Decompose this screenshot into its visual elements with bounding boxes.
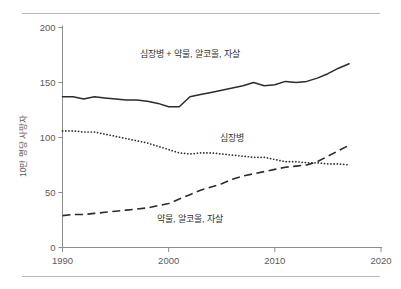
x-tick-label: 2010 (264, 255, 285, 266)
series-line-2 (63, 131, 350, 165)
y-tick-label: 50 (45, 187, 56, 198)
y-tick-label: 200 (40, 22, 56, 33)
chart-series-group (63, 64, 350, 216)
y-axis-title: 10만 명당 사망자 (18, 115, 28, 177)
x-tick-label: 1990 (52, 255, 73, 266)
y-axis-title-text: 10만 명당 사망자 (18, 115, 28, 177)
y-axis: 050100150200 (40, 22, 63, 253)
chart-figure: 050100150200 1990200020102020 심장병 + 약물, … (0, 0, 401, 289)
series-label-3: 약물, 알코올, 자살 (157, 213, 223, 224)
series-line-1 (63, 64, 350, 107)
y-tick-label: 100 (40, 132, 56, 143)
line-chart-plot: 050100150200 1990200020102020 심장병 + 약물, … (0, 0, 401, 289)
x-axis: 1990200020102020 (52, 248, 392, 266)
y-tick-label: 150 (40, 77, 56, 88)
x-tick-label: 2020 (370, 255, 391, 266)
x-tick-label: 2000 (158, 255, 179, 266)
series-label-2: 심장병 (220, 133, 244, 143)
y-tick-label: 0 (50, 242, 55, 253)
series-label-1: 심장병 + 약물, 알코올, 자살 (140, 48, 240, 59)
series-line-3 (63, 145, 350, 215)
series-inline-labels: 심장병 + 약물, 알코올, 자살심장병약물, 알코올, 자살 (140, 48, 245, 224)
